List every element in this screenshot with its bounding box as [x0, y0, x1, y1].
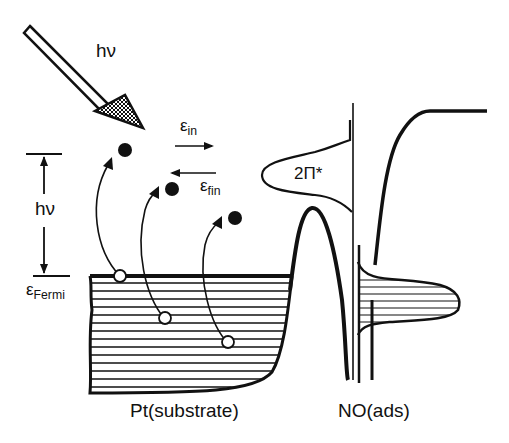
holes: [114, 270, 234, 348]
adsorbate-axis: [353, 103, 372, 383]
substrate-label: Pt(substrate): [130, 400, 239, 422]
hole-icon: [159, 312, 171, 324]
photon-label: hν: [96, 40, 116, 62]
orbital-label: 2Π*: [294, 164, 322, 184]
pt-substrate-band: [80, 276, 300, 393]
photon-arrow-icon: [24, 26, 143, 128]
energy-diagram: hν hν εin εfin εFermi 2Π* Pt(substrate) …: [0, 0, 509, 443]
vacuum-potential-curve: [375, 111, 487, 265]
hole-icon: [222, 336, 234, 348]
excited-electrons: [118, 143, 242, 225]
no-filled-band: [355, 262, 470, 335]
electron-icon: [118, 143, 132, 157]
electron-icon: [228, 211, 242, 225]
diagram-graphics: [0, 0, 509, 443]
hole-icon: [114, 270, 126, 282]
fermi-level-label: εFermi: [26, 280, 65, 302]
epsilon-fin-label: εfin: [200, 176, 221, 198]
epsilon-in-label: εin: [180, 116, 197, 138]
epsilon-arrows: [170, 142, 216, 177]
electron-icon: [165, 182, 179, 196]
potential-barrier: [290, 208, 348, 380]
energy-gap-label: hν: [35, 198, 55, 220]
adsorbate-label: NO(ads): [338, 400, 410, 422]
